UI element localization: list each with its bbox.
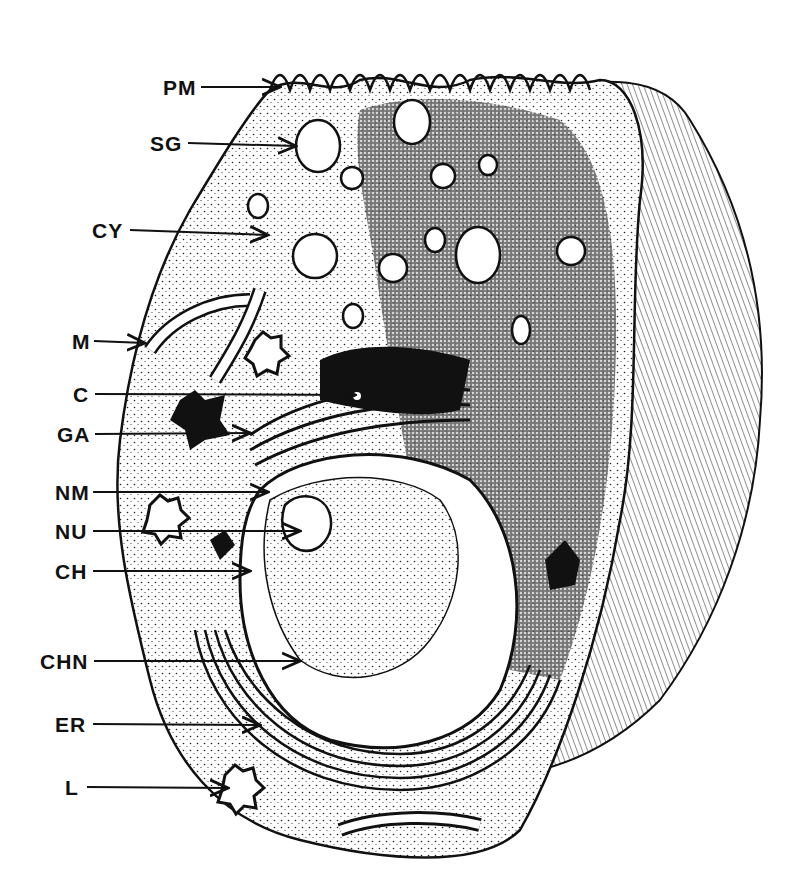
label-nucleolus: NU xyxy=(55,521,87,542)
label-mitochondrion: M xyxy=(72,331,91,352)
label-plasma-membrane: PM xyxy=(163,77,197,98)
nucleolus xyxy=(282,496,331,550)
leader-line-ga xyxy=(95,433,250,434)
cell-diagram: PM SG CY M C GA NM NU CH CHN ER L xyxy=(0,0,812,892)
leader-line-er xyxy=(93,724,260,725)
label-lysosome: L xyxy=(65,777,79,798)
leader-line-c xyxy=(95,394,355,395)
label-secretory-granule: SG xyxy=(150,133,182,154)
label-chromatin-network: CHN xyxy=(40,651,89,672)
label-nuclear-membrane: NM xyxy=(55,482,90,503)
cell-illustration xyxy=(0,0,812,892)
centriole xyxy=(352,391,362,401)
leader-line-l xyxy=(87,787,228,788)
label-endoplasmic-reticulum: ER xyxy=(55,714,86,735)
label-centriole: C xyxy=(73,384,89,405)
label-cytoplasm: CY xyxy=(92,220,123,241)
label-chromatin: CH xyxy=(55,561,87,582)
label-golgi-apparatus: GA xyxy=(57,424,91,445)
